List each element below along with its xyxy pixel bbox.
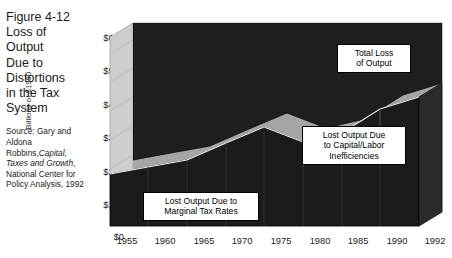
x-tick-label: 1955 <box>110 236 144 246</box>
x-tick-label: 1990 <box>380 236 414 246</box>
x-tick-label: 1985 <box>341 236 375 246</box>
callout-marginal-tax: Lost Output Due to Marginal Tax Rates <box>143 192 259 221</box>
callout-line: to Capital/Labor <box>308 140 400 150</box>
callout-line: Total Loss <box>343 48 405 58</box>
callout-line: Inefficiencies <box>308 151 400 161</box>
callout-line: of Output <box>343 58 405 68</box>
callout-total-loss: Total Loss of Output <box>337 44 411 73</box>
series-right-end-cap <box>419 83 442 226</box>
x-tick-label: 1975 <box>264 236 298 246</box>
callout-line: Lost Output Due to <box>149 196 253 206</box>
figure-container: Figure 4-12 Loss of Output Due to Distor… <box>0 0 452 258</box>
x-tick-label: 1970 <box>225 236 259 246</box>
x-tick-label: 1960 <box>148 236 182 246</box>
x-axis-ticks: 1955 1960 1965 1970 1975 1980 1985 1990 … <box>110 236 452 254</box>
callout-capital-labor: Lost Output Due to Capital/Labor Ineffic… <box>302 126 406 165</box>
x-tick-label: 1965 <box>187 236 221 246</box>
callout-line: Lost Output Due <box>308 130 400 140</box>
x-tick-label: 1992 <box>418 236 452 246</box>
callout-line: Marginal Tax Rates <box>149 206 253 216</box>
x-tick-label: 1980 <box>303 236 337 246</box>
